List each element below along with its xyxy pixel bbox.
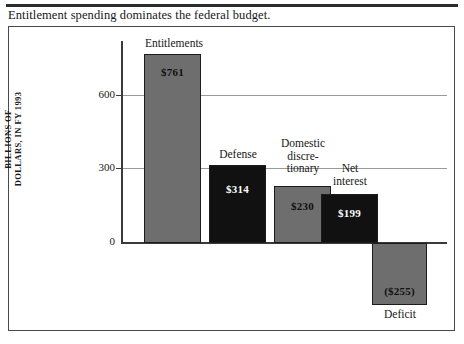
bar-label-entitlements: Entitlements [129,37,219,50]
bar-label-net-interest-line-2: interest [316,175,384,188]
bar-label-defense: Defense [207,148,269,161]
bar-label-net-interest-line-1: Net [316,162,384,175]
bar-label-net-interest: Net interest [316,162,384,187]
bar-label-domestic-line-1: Domestic [264,137,342,150]
top-rule [6,4,458,7]
bar-label-deficit: Deficit [367,308,433,321]
bar-value-deficit: ($255) [373,285,426,297]
bar-defense: $314 [209,165,266,243]
figure-caption: Entitlement spending dominates the feder… [8,8,454,23]
bar-label-domestic-line-2: discre- [264,150,342,163]
figure-frame: BILLIONS OF DOLLARS, IN FY 1993 600 300 … [8,26,455,331]
bar-value-defense: $314 [210,183,265,195]
bar-value-net-interest: $199 [322,207,377,219]
y-axis-title: BILLIONS OF DOLLARS, IN FY 1993 [3,79,23,199]
y-tick-label-0: 0 [79,235,115,247]
bar-net-interest: $199 [321,194,378,243]
y-axis-title-line-1: BILLIONS OF [3,79,13,199]
chart-plot-area: BILLIONS OF DOLLARS, IN FY 1993 600 300 … [9,27,456,332]
y-axis-line [121,41,123,243]
y-tick-label-300: 300 [79,161,115,173]
y-axis-tick-labels: 600 300 0 [71,27,115,257]
bar-label-entitlements-line-1: Entitlements [129,37,219,50]
bar-value-entitlements: $761 [145,66,200,78]
y-tick-label-600: 600 [79,88,115,100]
bar-label-defense-line-1: Defense [207,148,269,161]
y-axis-title-line-2: DOLLARS, IN FY 1993 [13,79,23,199]
bar-deficit: ($255) [372,243,427,305]
bar-label-deficit-line-1: Deficit [367,308,433,321]
bar-entitlements: $761 [144,54,201,243]
